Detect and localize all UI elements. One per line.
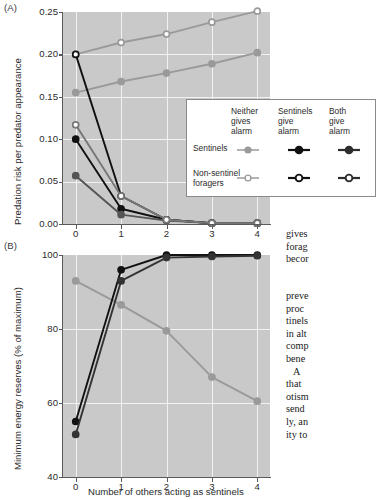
panel-b-x-axis-label: Number of others acting as sentinels xyxy=(88,486,244,497)
y-tick-label: 80 xyxy=(22,323,58,334)
data-point xyxy=(118,267,124,273)
x-tick-mark xyxy=(257,478,258,482)
data-point xyxy=(73,278,79,284)
data-point xyxy=(209,253,215,259)
data-point xyxy=(164,255,170,261)
data-point xyxy=(254,253,260,259)
y-tick-label: 100 xyxy=(22,249,58,260)
x-axis-line xyxy=(62,224,271,225)
y-axis-line xyxy=(62,255,63,478)
body-text-fragment-2: preve proc tinels in alt comp bene A tha… xyxy=(286,290,309,441)
body-text-fragment-1: gives forag becor xyxy=(286,228,309,266)
y-tick-label: 40 xyxy=(22,471,58,482)
x-tick-label: 4 xyxy=(250,481,264,492)
x-axis-line xyxy=(62,477,271,478)
x-tick-mark xyxy=(121,478,122,482)
y-axis-line xyxy=(62,12,63,225)
data-point xyxy=(164,328,170,334)
series-line xyxy=(76,256,258,435)
data-point xyxy=(118,302,124,308)
data-point xyxy=(254,398,260,404)
data-point xyxy=(209,374,215,380)
x-tick-mark xyxy=(212,478,213,482)
data-point xyxy=(73,431,79,437)
data-point xyxy=(118,278,124,284)
x-tick-label: 0 xyxy=(69,481,83,492)
data-point xyxy=(73,419,79,425)
x-tick-mark xyxy=(76,478,77,482)
x-tick-mark xyxy=(167,478,168,482)
y-tick-label: 60 xyxy=(22,397,58,408)
series-line xyxy=(76,255,258,422)
